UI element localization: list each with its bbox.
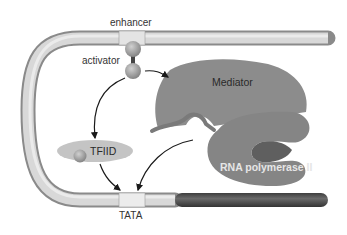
tata-segment — [119, 193, 145, 207]
arrow-mediator-tata — [138, 140, 193, 190]
pol-cleft — [252, 141, 293, 162]
activator — [125, 41, 141, 79]
enhancer-label: enhancer — [110, 17, 152, 28]
arrow-activator-mediator — [145, 71, 168, 77]
mediator-label: Mediator — [212, 76, 253, 88]
activator-label: activator — [82, 55, 120, 66]
arrow-tfiid-tata — [100, 164, 120, 190]
coding-region — [175, 193, 328, 207]
arrow-activator-tfiid — [94, 78, 125, 138]
tfiid-label: TFIID — [90, 145, 116, 157]
tata-label: TATA — [119, 210, 142, 221]
transcription-diagram — [0, 0, 347, 235]
rna-polymerase-label: RNA polymerase II — [220, 161, 312, 173]
